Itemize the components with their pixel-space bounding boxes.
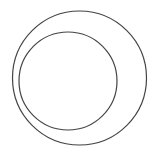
outer-circle bbox=[13, 11, 147, 145]
inner-circle bbox=[19, 32, 117, 130]
diagram-canvas bbox=[0, 0, 151, 156]
